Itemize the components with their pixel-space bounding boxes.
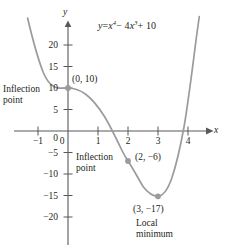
annotation-inflection-left-line1: Inflection	[3, 84, 40, 95]
point-marker-0-10	[65, 85, 71, 91]
x-tick-1: 1	[88, 136, 108, 147]
y-tick-neg15: −15	[31, 191, 58, 202]
annotation-inflection-point-left: Inflection point	[3, 84, 40, 105]
y-tick-10: 10	[38, 83, 58, 94]
point-label-0-10: (0, 10)	[72, 74, 97, 85]
annotation-local-minimum-line2: minimum	[136, 229, 173, 240]
annotation-local-minimum-line1: Local	[136, 218, 173, 229]
annotation-inflection-right-line2: point	[76, 163, 113, 174]
point-label-2-neg6: (2, −6)	[135, 152, 161, 163]
annotation-local-minimum: Local minimum	[136, 218, 173, 239]
y-tick-neg10: −10	[31, 169, 58, 180]
x-tick-3: 3	[148, 136, 168, 147]
marked-points	[65, 85, 161, 199]
y-axis	[65, 21, 72, 246]
y-tick-20: 20	[38, 40, 58, 51]
y-tick-15: 15	[38, 62, 58, 73]
point-marker-2-neg6	[125, 158, 131, 164]
x-axis-label: x	[214, 125, 218, 136]
y-tick-neg5: −5	[34, 148, 58, 159]
point-label-3-neg17: (3, −17)	[133, 204, 164, 215]
annotation-inflection-point-right: Inflection point	[76, 152, 113, 173]
x-tick-2: 2	[118, 136, 138, 147]
x-tick-0: 0	[52, 136, 72, 147]
x-tick-4: 4	[178, 136, 198, 147]
equation-plus: + 10	[138, 20, 157, 31]
y-axis-label: y	[63, 7, 67, 18]
annotation-inflection-right-line1: Inflection	[76, 152, 113, 163]
y-tick-neg20: −20	[31, 212, 58, 223]
figure-graph-of-quartic: y x y=x4− 4x3+ 10 20 15 10 5 0 −5 −10 −1…	[0, 0, 225, 252]
x-tick-neg1: −1	[28, 136, 48, 147]
point-marker-3-neg17	[155, 193, 161, 199]
y-tick-5: 5	[38, 105, 58, 116]
annotation-inflection-left-line2: point	[3, 95, 40, 106]
equation-label: y=x4− 4x3+ 10	[98, 20, 156, 31]
equation-minus: − 4	[116, 20, 129, 31]
